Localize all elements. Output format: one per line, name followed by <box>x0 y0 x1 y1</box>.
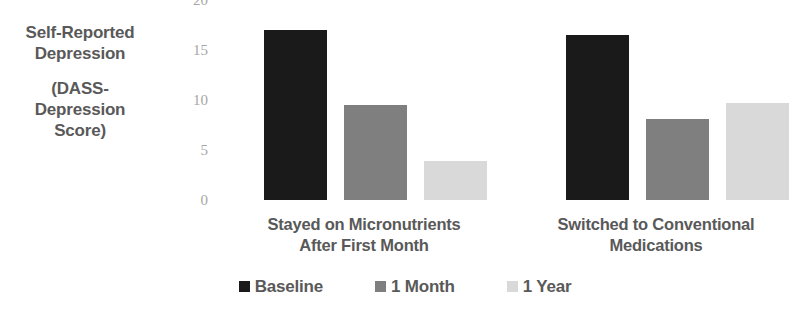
legend-label: 1 Month <box>391 278 455 295</box>
bar <box>646 119 709 200</box>
legend-label: Baseline <box>255 278 323 295</box>
y-axis-title-line: (DASS- <box>0 78 160 99</box>
y-axis-title-spacer <box>0 64 160 78</box>
bar-chart: Self-Reported Depression (DASS- Depressi… <box>0 0 810 310</box>
legend-item[interactable]: 1 Month <box>375 278 455 295</box>
chart-legend: Baseline1 Month1 Year <box>0 278 810 295</box>
category-label-line: Stayed on Micronutrients <box>214 214 514 235</box>
y-axis-tick-label: 10 <box>168 93 208 108</box>
y-axis-tick-label: 15 <box>168 43 208 58</box>
y-axis-ticks: 05101520 <box>160 0 208 310</box>
legend-item[interactable]: Baseline <box>239 278 323 295</box>
legend-swatch-icon <box>239 281 250 292</box>
y-axis-title-line: Depression <box>0 43 160 64</box>
y-axis-title-line: Self-Reported <box>0 22 160 43</box>
category-label-line: Medications <box>516 235 796 256</box>
y-axis-title-line: Score) <box>0 120 160 141</box>
x-axis-category-label: Stayed on Micronutrients After First Mon… <box>214 214 514 256</box>
category-label-line: After First Month <box>214 235 514 256</box>
plot-area <box>216 0 796 200</box>
bar <box>424 161 487 200</box>
x-axis-category-label: Switched to Conventional Medications <box>516 214 796 256</box>
legend-label: 1 Year <box>523 278 572 295</box>
y-axis-tick-label: 0 <box>168 193 208 208</box>
legend-item[interactable]: 1 Year <box>507 278 572 295</box>
y-axis-title-line: Depression <box>0 99 160 120</box>
y-axis-tick-label: 5 <box>168 143 208 158</box>
bar <box>566 35 629 200</box>
category-label-line: Switched to Conventional <box>516 214 796 235</box>
legend-swatch-icon <box>375 281 386 292</box>
legend-swatch-icon <box>507 281 518 292</box>
y-axis-title: Self-Reported Depression (DASS- Depressi… <box>0 22 160 141</box>
bar <box>726 103 789 200</box>
bar <box>344 105 407 200</box>
bar <box>264 30 327 200</box>
y-axis-tick-label: 20 <box>168 0 208 8</box>
